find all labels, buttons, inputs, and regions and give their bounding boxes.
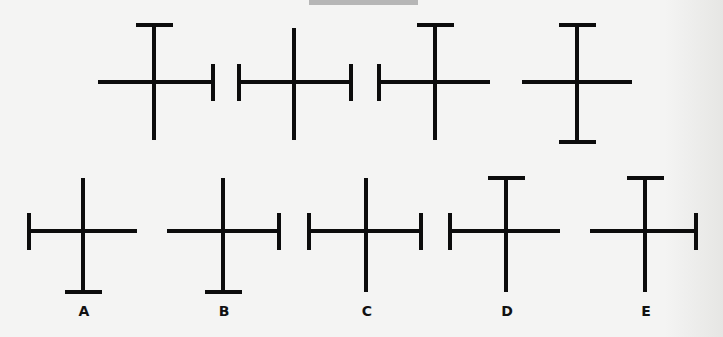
vertical-arm (81, 178, 85, 292)
left-cap (377, 64, 381, 101)
bottom-cap (65, 290, 102, 294)
option-label-b: B (209, 304, 239, 318)
bottom-cap (559, 140, 596, 144)
left-cap (307, 213, 311, 250)
bottom-cap (205, 290, 242, 294)
vertical-arm (152, 25, 156, 140)
vertical-arm (364, 178, 368, 292)
vertical-arm (575, 25, 579, 142)
right-cap (694, 213, 698, 250)
option-label-c: C (352, 304, 382, 318)
left-cap (237, 64, 241, 101)
right-cap (277, 213, 281, 250)
option-label-a: A (69, 304, 99, 318)
top-cap (627, 176, 664, 180)
left-cap (27, 213, 31, 250)
vertical-arm (504, 178, 508, 292)
option-label-d: D (492, 304, 522, 318)
top-cap (559, 23, 596, 27)
right-cap (419, 213, 423, 250)
top-tab-bar (309, 0, 418, 5)
right-cap (211, 64, 215, 101)
vertical-arm (643, 178, 647, 292)
vertical-arm (292, 28, 296, 140)
top-cap (136, 23, 173, 27)
right-cap (349, 64, 353, 101)
vertical-arm (433, 25, 437, 140)
option-label-e: E (631, 304, 661, 318)
left-cap (448, 213, 452, 250)
vertical-arm (221, 178, 225, 292)
top-cap (488, 176, 525, 180)
top-cap (417, 23, 454, 27)
